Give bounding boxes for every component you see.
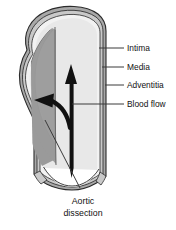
- aortic-dissection-figure: Intima Media Adventitia Blood flow Aorti…: [0, 0, 176, 230]
- label-aortic-dissection-line2: dissection: [63, 208, 102, 218]
- label-aortic-dissection-line1: Aortic: [72, 196, 95, 206]
- label-media: Media: [127, 62, 150, 72]
- label-adventitia: Adventitia: [127, 80, 164, 90]
- diagram-canvas: Intima Media Adventitia Blood flow Aorti…: [0, 0, 176, 230]
- label-blood-flow: Blood flow: [127, 99, 167, 109]
- label-intima: Intima: [127, 43, 150, 53]
